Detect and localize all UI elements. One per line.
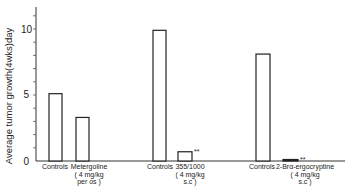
y-tick-label-5: 5 (23, 89, 29, 100)
bar-2-br-ergocryptine (283, 160, 298, 162)
bar-metergoline (76, 117, 89, 161)
category-labels: ControlsMetergoline( 4 mg/kgper os )Cont… (42, 163, 334, 186)
bar-chart: 0 5 10 Average tumor growth(4wks)day ***… (0, 0, 345, 189)
category-label: Controls (42, 163, 69, 170)
bar-controls (49, 94, 62, 161)
y-tick-label-0: 0 (23, 156, 29, 167)
bar-controls (256, 54, 270, 161)
y-axis-label: Average tumor growth(4wks)day (3, 27, 14, 164)
bars: **** (49, 30, 306, 162)
category-label: Controls (249, 163, 276, 170)
significance-marker: ** (194, 148, 200, 155)
significance-marker: ** (300, 156, 306, 163)
bar-355-1000 (178, 152, 192, 161)
category-sublabel: s.c ) (183, 178, 196, 186)
category-sublabel: per os ) (77, 178, 101, 186)
category-label: Controls (147, 163, 174, 170)
bar-controls (153, 30, 166, 161)
y-tick-label-10: 10 (21, 24, 33, 35)
category-sublabel: s.c ) (298, 178, 311, 186)
category-label: 355/1000 (175, 163, 204, 170)
